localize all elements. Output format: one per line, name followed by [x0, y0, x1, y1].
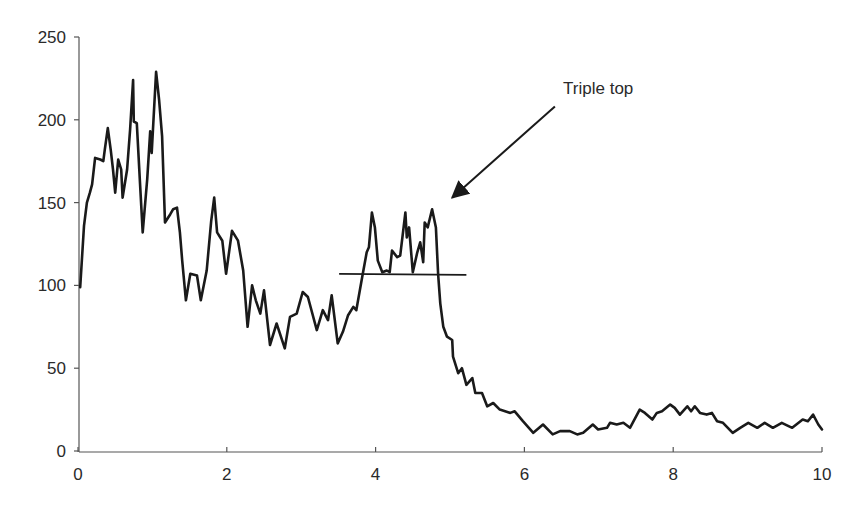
x-tick-label: 8: [668, 465, 677, 484]
x-tick-label: 0: [73, 465, 82, 484]
y-axis-ticks: 050100150200250: [38, 28, 79, 461]
y-tick-label: 150: [38, 194, 66, 213]
x-axis: 0246810: [73, 447, 831, 484]
line-chart: 050100150200250 0246810 Triple top: [0, 0, 859, 509]
y-tick-label: 50: [47, 359, 66, 378]
x-tick-label: 6: [520, 465, 529, 484]
x-tick-label: 10: [813, 465, 832, 484]
y-tick-label: 100: [38, 276, 66, 295]
y-tick-label: 0: [57, 442, 66, 461]
price-series-line: [80, 72, 822, 435]
x-tick-label: 4: [371, 465, 380, 484]
x-tick-label: 2: [222, 465, 231, 484]
triple-top-support-line: [339, 274, 466, 275]
y-axis: 050100150200250: [38, 28, 79, 461]
triple-top-arrow-icon: [452, 107, 555, 198]
y-tick-label: 200: [38, 111, 66, 130]
y-tick-label: 250: [38, 28, 66, 47]
triple-top-label: Triple top: [563, 79, 633, 98]
